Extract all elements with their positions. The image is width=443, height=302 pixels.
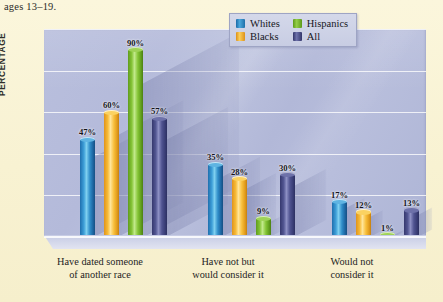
legend-label-blacks: Blacks: [250, 31, 279, 42]
chart-legend: Whites Hispanics Blacks All: [229, 13, 357, 47]
bar-body: [80, 139, 95, 237]
bar-value-label: 47%: [79, 127, 96, 137]
bar-body: [232, 179, 247, 237]
bar-body: [256, 218, 271, 237]
legend-label-whites: Whites: [250, 18, 280, 29]
bar-value-label: 9%: [257, 206, 270, 216]
chart-caption: ages 13–19.: [4, 1, 56, 12]
bar-body: [332, 202, 347, 237]
legend-item-hispanics[interactable]: Hispanics: [293, 18, 348, 29]
bar-value-label: 35%: [207, 152, 224, 162]
bar-cap-ellipse: [152, 116, 167, 121]
category-label-line1: Would not: [292, 256, 412, 269]
bar-cap-ellipse: [80, 137, 95, 142]
category-label-2: Would notconsider it: [292, 256, 412, 281]
bar-value-label: 57%: [151, 106, 168, 116]
bar-whites[interactable]: 47%: [80, 139, 95, 237]
legend-label-all: All: [307, 31, 320, 42]
bar-value-label: 30%: [279, 163, 296, 173]
legend-swatch-blacks-icon: [236, 32, 245, 41]
legend-label-hispanics: Hispanics: [307, 18, 348, 29]
bar-blacks[interactable]: 12%: [356, 212, 371, 237]
category-label-line2: of another race: [40, 269, 160, 282]
category-label-line2: consider it: [292, 269, 412, 282]
bar-cap-ellipse: [256, 216, 271, 221]
category-label-1: Have not butwould consider it: [168, 256, 288, 281]
bar-value-label: 1%: [381, 223, 394, 233]
bar-all[interactable]: 57%: [152, 118, 167, 237]
bar-body: [128, 50, 143, 237]
bar-value-label: 12%: [355, 200, 372, 210]
bar-cap-ellipse: [208, 162, 223, 167]
bar-whites[interactable]: 17%: [332, 202, 347, 237]
bar-hispanics[interactable]: 90%: [128, 50, 143, 237]
category-label-line2: would consider it: [168, 269, 288, 282]
bar-value-label: 13%: [403, 198, 420, 208]
bar-all[interactable]: 13%: [404, 210, 419, 237]
gridline: [44, 112, 426, 113]
category-label-0: Have dated someoneof another race: [40, 256, 160, 281]
bar-body: [404, 210, 419, 237]
bar-blacks[interactable]: 60%: [104, 112, 119, 237]
legend-swatch-all-icon: [293, 32, 302, 41]
bar-whites[interactable]: 35%: [208, 164, 223, 237]
bar-value-label: 28%: [231, 167, 248, 177]
bar-cap-ellipse: [104, 110, 119, 115]
bar-value-label: 60%: [103, 100, 120, 110]
gridline: [44, 154, 426, 155]
bar-cap-ellipse: [356, 209, 371, 214]
bar-cap-ellipse: [404, 207, 419, 212]
bar-body: [104, 112, 119, 237]
bar-blacks[interactable]: 28%: [232, 179, 247, 237]
plot-area: 47%60%90%57%35%28%9%30%17%12%1%13%: [44, 29, 426, 237]
bar-hispanics[interactable]: 9%: [256, 218, 271, 237]
bar-body: [152, 118, 167, 237]
bar-value-label: 17%: [331, 190, 348, 200]
bar-body: [280, 175, 295, 237]
bar-body: [208, 164, 223, 237]
category-label-line1: Have not but: [168, 256, 288, 269]
bar-body: [356, 212, 371, 237]
plot-baseline: [44, 236, 426, 238]
legend-swatch-hispanics-icon: [293, 19, 302, 28]
legend-item-whites[interactable]: Whites: [236, 18, 280, 29]
bar-value-label: 90%: [127, 38, 144, 48]
legend-swatch-whites-icon: [236, 19, 245, 28]
legend-item-blacks[interactable]: Blacks: [236, 31, 280, 42]
bar-all[interactable]: 30%: [280, 175, 295, 237]
chart-page: ages 13–19. 47%60%90%57%35%28%9%30%17%12…: [0, 0, 443, 302]
category-label-line1: Have dated someone: [40, 256, 160, 269]
y-axis-title: PERCENTAGE: [0, 32, 7, 96]
gridline: [44, 71, 426, 72]
legend-item-all[interactable]: All: [293, 31, 348, 42]
